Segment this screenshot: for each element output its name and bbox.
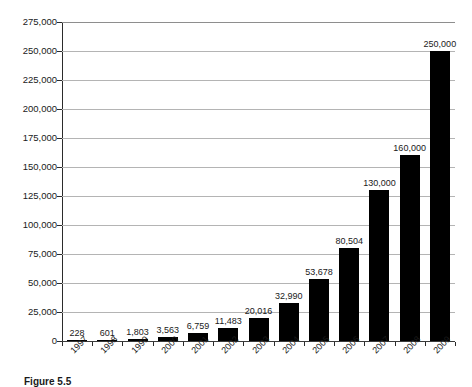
- bar: [369, 190, 389, 341]
- bar-value-label: 160,000: [393, 144, 426, 153]
- bar: [430, 51, 450, 341]
- x-axis-tick-mark: [274, 342, 275, 346]
- x-axis-tick-mark: [455, 342, 456, 346]
- bar-value-label: 32,990: [275, 292, 303, 301]
- bar-value-label: 53,678: [305, 268, 333, 277]
- bar: [400, 155, 420, 341]
- y-axis-labels: 025,00050,00075,000100,000125,000150,000…: [0, 0, 57, 386]
- y-axis-tick-label: 125,000: [23, 191, 57, 201]
- gridline: [62, 109, 455, 110]
- x-axis-tick-mark: [122, 342, 123, 346]
- bar-value-label: 250,000: [424, 40, 457, 49]
- y-axis-tick-label: 50,000: [28, 278, 57, 288]
- y-axis-tick-label: 200,000: [23, 104, 57, 114]
- y-axis-tick-label: 175,000: [23, 133, 57, 143]
- y-axis-tick-label: 75,000: [28, 249, 57, 259]
- bar: [309, 279, 329, 341]
- y-axis-tick-label: 100,000: [23, 220, 57, 230]
- bar-value-label: 6,759: [187, 322, 210, 331]
- bar-value-label: 80,504: [335, 237, 363, 246]
- x-axis-tick-mark: [304, 342, 305, 346]
- x-axis-tick-mark: [334, 342, 335, 346]
- x-axis-tick-mark: [92, 342, 93, 346]
- gridline: [62, 51, 455, 52]
- gridline: [62, 138, 455, 139]
- x-axis-tick-mark: [364, 342, 365, 346]
- y-axis-tick-label: 25,000: [28, 307, 57, 317]
- gridline: [62, 254, 455, 255]
- y-axis-tick-label: 150,000: [23, 162, 57, 172]
- y-axis-tick-label: 275,000: [23, 17, 57, 27]
- plot-area: 2286011,8033,5636,75911,48320,01632,9905…: [62, 22, 455, 341]
- gridline: [62, 225, 455, 226]
- x-axis-tick-mark: [62, 342, 63, 346]
- gridline: [62, 167, 455, 168]
- gridline: [62, 80, 455, 81]
- x-axis-tick-mark: [213, 342, 214, 346]
- y-axis-tick-label: 250,000: [23, 46, 57, 56]
- bar: [339, 248, 359, 341]
- x-axis-tick-mark: [425, 342, 426, 346]
- bar-value-label: 3,563: [157, 326, 180, 335]
- bar-value-label: 20,016: [245, 307, 273, 316]
- x-axis-tick-mark: [183, 342, 184, 346]
- bar-value-label: 130,000: [363, 179, 396, 188]
- gridline: [62, 22, 455, 23]
- gridline: [62, 196, 455, 197]
- bar-value-label: 11,483: [215, 317, 242, 326]
- y-axis-tick-label: 225,000: [23, 75, 57, 85]
- gridline: [62, 283, 455, 284]
- figure-caption: Figure 5.5: [24, 376, 71, 387]
- x-axis-tick-mark: [395, 342, 396, 346]
- x-axis-tick-mark: [243, 342, 244, 346]
- x-axis-tick-mark: [153, 342, 154, 346]
